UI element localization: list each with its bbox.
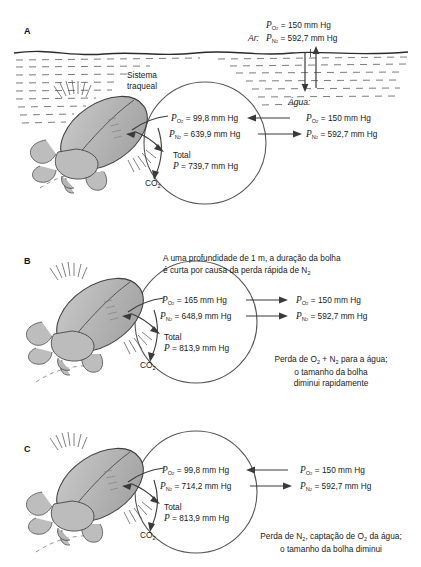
bubble-pn2-b: PN2 = 648,9 mm Hg (160, 311, 231, 323)
caption-b-line2-text: é curta por causa da perda rápida de N (163, 265, 307, 275)
caption-c-n2-sub: 2 (302, 536, 305, 542)
water-pn2-value-c: = 592,7 mm Hg (314, 481, 371, 491)
air-pn2-value-a: = 592,7 mm Hg (280, 33, 337, 43)
total-label-b: Total (164, 332, 182, 343)
water-pn2-b: PN2 = 592,7 mm Hg (296, 311, 367, 323)
co2-label-b: CO2 (140, 360, 156, 372)
bubble-pn2-value-c: = 714,2 mm Hg (174, 481, 231, 491)
p-symbol: P (306, 113, 312, 123)
p-symbol: P (306, 129, 312, 139)
caption-b-bottom-line3: diminui rapidamente (247, 378, 415, 390)
caption-b-o2-sub: 2 (317, 359, 320, 365)
co2-subscript-b: 2 (152, 365, 155, 371)
total-label-c: Total (164, 502, 182, 513)
water-header-a: Água: (288, 97, 310, 108)
p-symbol: P (169, 129, 175, 139)
panel-b-water-exchange-arrows (246, 297, 288, 320)
tracheal-label-line2: traqueal (112, 81, 172, 92)
p-symbol: P (160, 311, 166, 321)
tracheal-label-line1: Sistema (112, 70, 172, 81)
p-symbol: P (162, 465, 168, 475)
co2-label-c: CO2 (140, 530, 156, 542)
water-pn2-a: PN2 = 592,7 mm Hg (306, 129, 377, 141)
o2-subscript: O2 (312, 118, 319, 124)
caption-c-bottom-b: , captação de O (305, 531, 364, 541)
water-surface-line (14, 51, 408, 54)
total-value-text-c: = 813,9 mm Hg (172, 513, 229, 523)
total-value-c: P = 813,9 mm Hg (164, 513, 229, 524)
panel-b: B (0, 196, 421, 401)
panel-c-water-exchange-arrows (246, 467, 292, 490)
co2-subscript-a: 2 (157, 183, 160, 189)
caption-b-bottom-b: + N (320, 354, 335, 364)
water-pn2-value-a: = 592,7 mm Hg (320, 129, 377, 139)
o2-subscript: O2 (272, 25, 279, 31)
caption-b-bottom-a: Perda de O (274, 354, 316, 364)
p-symbol: P (266, 33, 272, 43)
p-symbol: P (164, 513, 170, 523)
co2-text-a: CO (145, 178, 157, 188)
water-po2-value-c: = 150 mm Hg (315, 465, 365, 475)
bubble-po2-value-c: = 99,8 mm Hg (177, 465, 229, 475)
panel-a-water-exchange-arrows (247, 115, 302, 138)
bubble-po2-a: PO2 = 99,8 mm Hg (171, 113, 238, 125)
water-po2-value-b: = 150 mm Hg (311, 295, 361, 305)
co2-text-b: CO (140, 360, 152, 370)
bubble-po2-value-b: = 165 mm Hg (177, 295, 227, 305)
beetle-illustration-b (26, 262, 156, 382)
beetle-illustration-c (26, 432, 156, 552)
caption-c-bottom-line1: Perda de N2, captação de O2 da água; (243, 531, 419, 544)
caption-b-bottom-line1: Perda de O2 + N2 para a água; (247, 354, 415, 367)
bubble-po2-b: PO2 = 165 mm Hg (162, 295, 227, 307)
tracheal-system-label-a: Sistema traqueal (112, 70, 172, 92)
p-symbol: P (300, 481, 306, 491)
p-symbol: P (162, 295, 168, 305)
o2-subscript: O2 (306, 470, 313, 476)
bubble-po2-c: PO2 = 99,8 mm Hg (162, 465, 229, 477)
p-symbol: P (300, 465, 306, 475)
air-bubble (144, 82, 266, 204)
total-label-a: Total (173, 150, 191, 161)
panel-b-top-caption: A uma profundidade de 1 m, a duração da … (163, 253, 415, 277)
bubble-pn2-a: PN2 = 639,9 mm Hg (169, 129, 240, 141)
water-po2-c: PO2 = 150 mm Hg (300, 465, 365, 477)
air-pn2-a: PN2 = 592,7 mm Hg (266, 33, 337, 45)
o2-subscript: O2 (168, 300, 175, 306)
water-po2-a: PO2 = 150 mm Hg (306, 113, 371, 125)
co2-label-a: CO2 (145, 178, 161, 190)
air-po2-value-a: = 150 mm Hg (281, 20, 331, 30)
water-po2-b: PO2 = 150 mm Hg (296, 295, 361, 307)
caption-b-bottom-line2: o tamanho da bolha (247, 367, 415, 379)
total-value-text-b: = 813,9 mm Hg (172, 343, 229, 353)
n2-subscript: N2 (166, 486, 172, 492)
o2-subscript: O2 (177, 118, 184, 124)
bubble-pn2-c: PN2 = 714,2 mm Hg (160, 481, 231, 493)
caption-b-line1: A uma profundidade de 1 m, a duração da … (163, 253, 415, 265)
panel-c: C (0, 404, 421, 567)
bubble-pn2-value-a: = 639,9 mm Hg (183, 129, 240, 139)
air-header-a: Ar: (248, 33, 259, 44)
caption-b-line2: é curta por causa da perda rápida de N2 (163, 265, 415, 278)
p-symbol: P (160, 481, 166, 491)
caption-c-bottom-c: da água; (367, 531, 402, 541)
caption-b-n2-sub: 2 (335, 359, 338, 365)
caption-c-bottom-line2: o tamanho da bolha diminui (243, 544, 419, 556)
caption-b-bottom-c: para a água; (339, 354, 388, 364)
water-pn2-value-b: = 592,7 mm Hg (310, 311, 367, 321)
beetle-illustration (30, 80, 160, 193)
total-value-a: P = 739,7 mm Hg (173, 161, 238, 172)
n2-subscript: N2 (302, 316, 308, 322)
n2-subscript: N2 (306, 486, 312, 492)
p-symbol: P (266, 20, 272, 30)
water-po2-value-a: = 150 mm Hg (321, 113, 371, 123)
o2-subscript: O2 (168, 470, 175, 476)
bubble-po2-value-a: = 99,8 mm Hg (186, 113, 238, 123)
panel-a-co2-arrow (152, 128, 162, 180)
co2-subscript-c: 2 (152, 535, 155, 541)
p-symbol: P (164, 343, 170, 353)
caption-c-o2-sub: 2 (364, 536, 367, 542)
n2-subscript: N2 (312, 134, 318, 140)
panel-b-bottom-caption: Perda de O2 + N2 para a água; o tamanho … (247, 354, 415, 390)
o2-subscript: O2 (302, 300, 309, 306)
bubble-pn2-value-b: = 648,9 mm Hg (174, 311, 231, 321)
